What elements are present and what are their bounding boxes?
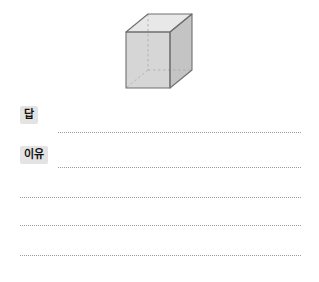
extra-write-line-2[interactable]: [20, 225, 301, 226]
reason-field-row: 이유: [0, 146, 319, 172]
answer-field-row: 답: [0, 106, 319, 132]
extra-write-line-1[interactable]: [20, 197, 301, 198]
extra-write-line-3[interactable]: [20, 255, 301, 256]
reason-write-line[interactable]: [58, 167, 301, 168]
rectangular-prism-figure: [118, 4, 202, 102]
worksheet-area: 답 이유: [0, 104, 319, 282]
answer-write-line[interactable]: [58, 132, 301, 133]
answer-label: 답: [20, 106, 38, 124]
figure-area: [0, 0, 319, 104]
reason-label: 이유: [20, 146, 48, 164]
